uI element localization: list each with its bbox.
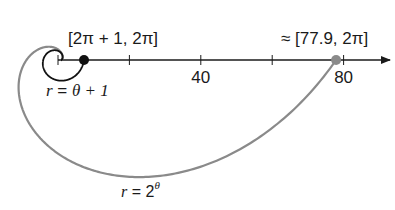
linear-spiral-equation: r = θ + 1 — [46, 81, 109, 100]
linear-spiral-endpoint — [79, 55, 89, 65]
linear-spiral-curve — [43, 50, 84, 80]
exponential-endpoint-label: ≈ [77.9, 2π] — [281, 29, 368, 48]
linear-endpoint-label: [2π + 1, 2π] — [68, 29, 158, 48]
polar-diagram: 4080 [2π + 1, 2π] ≈ [77.9, 2π] r = θ + 1… — [0, 0, 395, 210]
exponential-spiral-equation: r = 2θ — [121, 179, 160, 200]
axis-tick-label: 80 — [334, 68, 353, 87]
exponential-spiral-endpoint — [331, 55, 341, 65]
axis-tick-label: 40 — [191, 68, 210, 87]
exponential-spiral-curve — [19, 47, 336, 177]
